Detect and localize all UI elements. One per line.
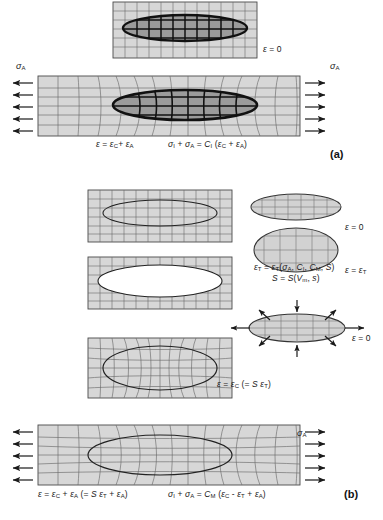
label-sigma-a-bottom-right: σA bbox=[297, 428, 307, 438]
label-strain-a-bottom: ε = εC+ εA bbox=[96, 139, 134, 149]
panel-b-block-2 bbox=[88, 257, 232, 309]
label-free-inclusion-strain-zero: ε = 0 bbox=[345, 222, 364, 232]
stress-arrows-left-a bbox=[13, 83, 33, 131]
panel-tag-a: (a) bbox=[330, 148, 343, 160]
label-strain-b-constrained: ε = εC (= S εT) bbox=[217, 379, 271, 389]
label-stress-a-bottom: σI + σA = CI (εC + εA) bbox=[168, 139, 247, 149]
label-strain-a-top: ε = 0 bbox=[263, 44, 282, 54]
panel-b-block-3 bbox=[88, 338, 232, 398]
label-traction-strain-zero: ε = 0 bbox=[352, 333, 371, 343]
label-equation-epsilon-t: εT = εT(σA, CI, CM, S) bbox=[254, 262, 334, 272]
panel-tag-b: (b) bbox=[344, 488, 358, 500]
free-inclusion-flat bbox=[250, 193, 342, 221]
label-equation-s: S = S(Vm, s) bbox=[272, 273, 320, 283]
inclusion-hole-b2 bbox=[98, 265, 222, 297]
stress-arrows-left-b bbox=[13, 432, 33, 480]
panel-b-block-4 bbox=[13, 425, 325, 485]
panel-b-block-1 bbox=[88, 190, 232, 242]
inclusion-with-tractions bbox=[231, 300, 364, 357]
stress-arrows-right-b bbox=[305, 432, 325, 480]
figure-root: ε = 0 σA σA ε = εC+ εA σI + σA = CI (εC … bbox=[0, 0, 383, 520]
panel-a-bottom-block bbox=[13, 76, 325, 136]
stress-arrows-right-a bbox=[305, 83, 325, 131]
label-strain-b-bottom: ε = εC + εA (= S εT + εA) bbox=[38, 489, 128, 499]
panel-a-top-block bbox=[113, 2, 257, 58]
label-stress-b-bottom: σI + σA = CM (εC - εT + εA) bbox=[168, 489, 266, 499]
label-sigma-a-top-left: σA bbox=[16, 61, 26, 71]
label-free-inclusion-strain-t: ε = εT bbox=[345, 265, 366, 275]
figure-canvas bbox=[0, 0, 383, 520]
label-sigma-a-top-right: σA bbox=[330, 61, 340, 71]
